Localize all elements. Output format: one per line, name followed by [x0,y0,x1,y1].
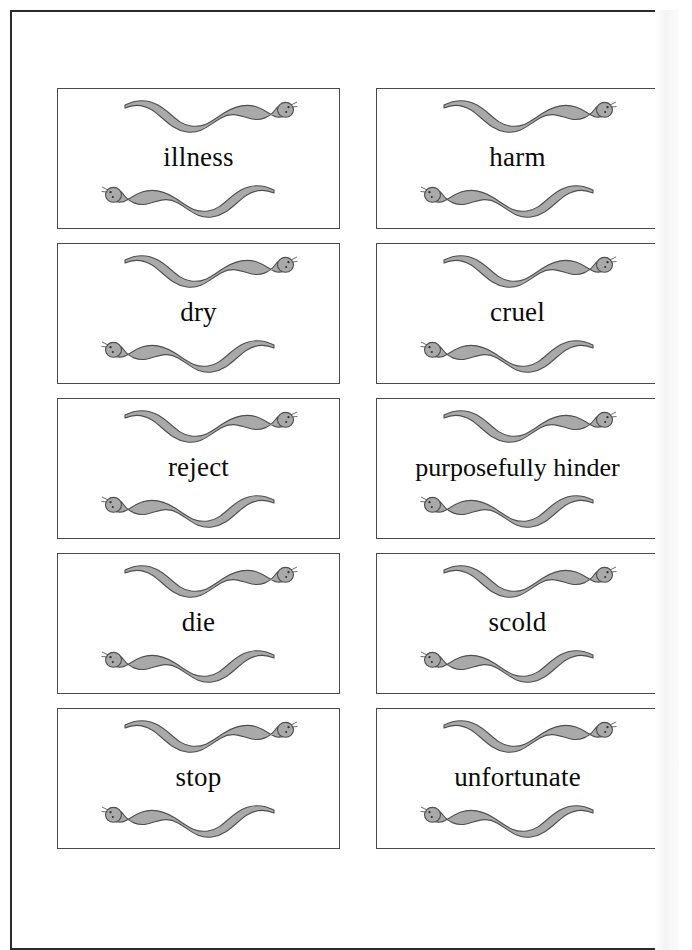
worm-icon [100,336,278,374]
worm-icon [419,336,597,374]
card-unfortunate[interactable]: unfortunate [376,708,659,849]
word-card-label: scold [485,609,551,636]
worm-illustration-top [57,250,340,290]
word-card-label: dry [176,299,221,326]
worm-icon [440,96,618,134]
worm-icon [100,801,278,839]
worm-illustration-top [376,715,659,755]
card-stop[interactable]: stop [57,708,340,849]
worm-illustration-top [376,405,659,445]
word-card-label: cruel [486,299,549,326]
card-reject[interactable]: reject [57,398,340,539]
card-die[interactable]: die [57,553,340,694]
word-card-label: unfortunate [450,764,585,791]
worm-icon [121,561,299,599]
worm-illustration-bottom [376,800,659,840]
worm-illustration-top [57,715,340,755]
worm-illustration-bottom [57,645,340,685]
card-scold[interactable]: scold [376,553,659,694]
word-card-label: stop [172,764,226,791]
worm-illustration-top [57,405,340,445]
worm-icon [419,491,597,529]
worm-illustration-bottom [376,645,659,685]
word-card-grid: illness harm [57,88,659,849]
worm-icon [419,801,597,839]
worm-illustration-bottom [376,335,659,375]
worm-illustration-bottom [57,490,340,530]
card-dry[interactable]: dry [57,243,340,384]
worm-icon [121,716,299,754]
card-cruel[interactable]: cruel [376,243,659,384]
card-illness[interactable]: illness [57,88,340,229]
worm-illustration-top [57,95,340,135]
word-card-label: reject [164,454,233,481]
scanned-page-sheet: illness harm [10,10,677,950]
worm-icon [121,96,299,134]
word-card-label: purposefully hinder [411,455,623,481]
worm-icon [121,406,299,444]
worm-icon [440,251,618,289]
card-harm[interactable]: harm [376,88,659,229]
word-card-label: harm [485,144,549,171]
worm-illustration-top [376,95,659,135]
word-card-label: illness [159,144,237,171]
worm-icon [419,646,597,684]
worm-icon [440,561,618,599]
worm-icon [100,181,278,219]
worm-illustration-bottom [376,180,659,220]
worm-illustration-top [376,250,659,290]
worm-illustration-bottom [57,800,340,840]
worm-illustration-bottom [376,490,659,530]
worm-icon [440,716,618,754]
worm-icon [100,491,278,529]
card-purposefully-hinder[interactable]: purposefully hinder [376,398,659,539]
worm-illustration-top [376,560,659,600]
worm-illustration-bottom [57,335,340,375]
worm-icon [100,646,278,684]
worm-illustration-bottom [57,180,340,220]
worm-illustration-top [57,560,340,600]
worm-icon [419,181,597,219]
worm-icon [121,251,299,289]
word-card-label: die [178,609,220,636]
worm-icon [440,406,618,444]
